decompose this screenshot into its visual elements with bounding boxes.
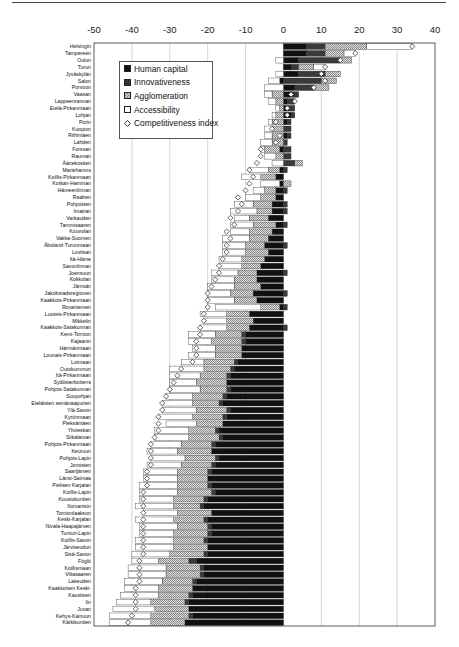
bar-segment <box>276 99 284 105</box>
x-tick-label: -10 <box>239 24 253 35</box>
bar-segment <box>177 469 207 475</box>
index-diamond-icon <box>243 188 248 193</box>
bar-segment <box>234 359 238 365</box>
region-label: Lohjan <box>75 112 91 118</box>
human-capital-swatch-icon <box>124 65 131 72</box>
x-tick-label: -40 <box>125 24 139 35</box>
bar-segment <box>227 311 250 317</box>
region-label: Keuruun <box>71 448 91 454</box>
region-label: Jyväskylän <box>66 71 91 77</box>
region-label: Föglö <box>78 558 91 564</box>
bar-segment <box>230 407 283 413</box>
bar-segment <box>215 345 242 351</box>
bar-segment <box>204 318 227 324</box>
x-tick-label: 40 <box>430 24 441 35</box>
region-label: Kouvolan <box>69 228 91 234</box>
bar-segment <box>204 359 234 365</box>
bar-segment <box>155 606 189 612</box>
bar-segment <box>151 620 185 626</box>
bar-segment <box>249 325 283 331</box>
bar-segment <box>283 71 298 77</box>
bar-segment <box>162 407 196 413</box>
bar-segment <box>211 524 283 530</box>
bar-segment <box>230 387 283 393</box>
region-label: Tunturi-Lapin <box>61 530 91 536</box>
bar-segment <box>208 544 284 550</box>
bar-segment <box>162 579 192 585</box>
bar-segment <box>306 44 325 50</box>
bar-segment <box>193 592 284 598</box>
bar-chart: -50-40-30-20-10010203040 HelsinginTamper… <box>0 0 459 647</box>
bar-segment <box>208 551 284 557</box>
bar-segment <box>283 78 321 84</box>
bar-segment <box>128 572 166 578</box>
bar-segment <box>196 380 226 386</box>
bar-segment <box>280 105 284 111</box>
bar-segment <box>283 167 287 173</box>
bar-segment <box>143 510 177 516</box>
bar-segment <box>158 414 192 420</box>
region-label: Saarijärven <box>65 468 91 474</box>
bar-segment <box>200 572 204 578</box>
bar-segment <box>283 147 291 153</box>
bar-segment <box>181 442 211 448</box>
bar-segment <box>283 126 291 132</box>
bar-segment <box>272 229 283 235</box>
bar-segment <box>249 311 283 317</box>
bar-segment <box>246 332 284 338</box>
bar-segment <box>280 304 284 310</box>
bar-segment <box>230 208 257 214</box>
bar-segment <box>283 325 287 331</box>
bar-segment <box>211 462 215 468</box>
bar-segment <box>174 503 201 509</box>
bar-segment <box>208 291 231 297</box>
bar-segment <box>211 483 283 489</box>
x-tick-label: 30 <box>392 24 403 35</box>
bar-segment <box>265 256 284 262</box>
bar-segment <box>325 51 344 57</box>
region-label: Mariehamns <box>62 167 91 173</box>
bar-segment <box>299 57 341 63</box>
bar-segment <box>249 236 268 242</box>
diamond-marker-icon <box>124 120 131 127</box>
bar-segment <box>257 297 284 303</box>
bar-segment <box>299 64 314 70</box>
bar-segment <box>272 208 283 214</box>
bar-segment <box>283 222 287 228</box>
index-diamond-icon <box>228 215 233 220</box>
bar-segment <box>283 99 287 105</box>
x-tick-label: 20 <box>354 24 365 35</box>
bar-segment <box>208 538 284 544</box>
bar-segment <box>215 428 219 434</box>
bar-segment <box>204 503 284 509</box>
bar-segment <box>132 558 159 564</box>
bar-segment <box>261 284 284 290</box>
region-label: Äänekosken <box>62 160 91 166</box>
region-label: Porvoon <box>72 84 91 90</box>
region-label: Kotkan-Haminan <box>52 180 91 186</box>
bar-segment <box>174 531 208 537</box>
index-diamond-icon <box>247 181 252 186</box>
region-label: Lounais-Pirkanmaan <box>43 352 91 358</box>
bar-segment <box>151 599 185 605</box>
bar-segment <box>189 339 212 345</box>
region-label: Varkauden <box>66 215 91 221</box>
bar-segment <box>189 352 216 358</box>
region-label: Helsingin <box>70 43 91 49</box>
bar-segment <box>227 380 284 386</box>
bar-segment <box>261 174 276 180</box>
bar-segment <box>166 394 193 400</box>
bar-segment <box>253 222 276 228</box>
region-label: Pohjois-Lapin <box>60 455 92 461</box>
bar-segment <box>265 147 280 153</box>
bar-segment <box>242 339 246 345</box>
region-label: Länsi-Saimaa <box>59 475 91 481</box>
bar-segment <box>174 538 204 544</box>
bar-segment <box>276 105 280 111</box>
bar-segment <box>283 133 287 139</box>
bar-segment <box>268 167 279 173</box>
bar-segment <box>246 195 261 201</box>
innovativeness-swatch-icon <box>124 79 131 86</box>
index-diamond-icon <box>156 421 161 426</box>
region-label: Raahen <box>73 194 91 200</box>
